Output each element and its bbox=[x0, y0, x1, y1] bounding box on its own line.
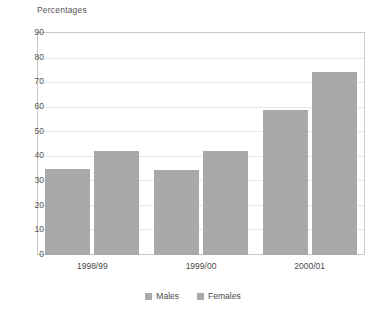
legend-item-males: Males bbox=[145, 291, 179, 301]
chart-axis-title: Percentages bbox=[37, 5, 87, 15]
bars-layer bbox=[38, 33, 364, 255]
x-axis-tick-label: 1999/00 bbox=[186, 261, 217, 271]
legend-label: Females bbox=[208, 291, 241, 301]
legend-label: Males bbox=[156, 291, 179, 301]
bar-chart: Percentages 0102030405060708090 1998/991… bbox=[0, 0, 386, 318]
x-axis-tick-label: 1998/99 bbox=[77, 261, 108, 271]
bar-males-2000-01 bbox=[263, 110, 308, 255]
legend-swatch-icon bbox=[197, 293, 204, 300]
bar-males-1999-00 bbox=[154, 170, 199, 255]
bar-males-1998-99 bbox=[45, 169, 90, 255]
bar-females-1998-99 bbox=[94, 151, 139, 255]
bar-females-2000-01 bbox=[312, 72, 357, 255]
chart-legend: MalesFemales bbox=[0, 291, 386, 301]
bar-females-1999-00 bbox=[203, 151, 248, 255]
x-axis-tick-label: 2000/01 bbox=[294, 261, 325, 271]
legend-item-females: Females bbox=[197, 291, 241, 301]
legend-swatch-icon bbox=[145, 293, 152, 300]
